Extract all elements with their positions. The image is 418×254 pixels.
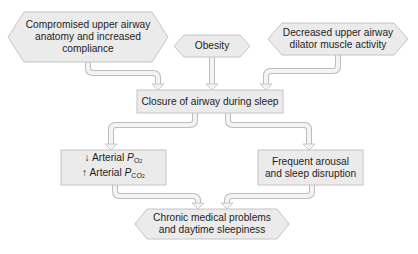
node-obesity: Obesity [180, 36, 244, 56]
edge-arousal-to-chronic [221, 185, 312, 209]
node-text-line: dilator muscle activity [290, 39, 387, 51]
node-text-line: Compromised upper airway [26, 19, 151, 31]
node-text-line: Frequent arousal [272, 156, 349, 168]
node-text-line: and daytime sleepiness [159, 224, 265, 236]
arterial-pco2-line: ↑ Arterial PCO2 [82, 167, 145, 182]
node-text-line: Closure of airway during sleep [141, 96, 278, 108]
node-text-line: and sleep disruption [265, 168, 356, 180]
increase-arrow-icon: ↑ [82, 167, 87, 178]
node-closure: Closure of airway during sleep [137, 90, 283, 113]
edge-dilator-to-closure [260, 55, 338, 90]
edge-upper-anatomy-to-closure [88, 62, 164, 90]
node-arousal: Frequent arousal and sleep disruption [258, 150, 363, 185]
connectors [88, 55, 338, 209]
node-text-line: anatomy and increased [35, 31, 141, 43]
edge-obesity-to-closure [206, 57, 218, 90]
node-text-line: Obesity [195, 40, 230, 52]
node-upper-anatomy: Compromised upper airway anatomy and inc… [20, 14, 156, 60]
node-chronic: Chronic medical problems and daytime sle… [147, 209, 277, 239]
node-arterial: ↓ Arterial PO2 ↑ Arterial PCO2 [61, 149, 166, 184]
edge-arterial-to-chronic [115, 185, 204, 209]
arterial-po2-line: ↓ Arterial PO2 [85, 152, 143, 167]
node-dilator-muscle: Decreased upper airway dilator muscle ac… [278, 24, 398, 54]
node-text-line: compliance [62, 43, 114, 55]
decrease-arrow-icon: ↓ [85, 152, 90, 163]
edge-closure-to-arterial [105, 113, 195, 150]
edge-closure-to-arousal [228, 113, 315, 150]
node-text-line: Decreased upper airway [283, 27, 393, 39]
node-text-line: Chronic medical problems [153, 212, 271, 224]
